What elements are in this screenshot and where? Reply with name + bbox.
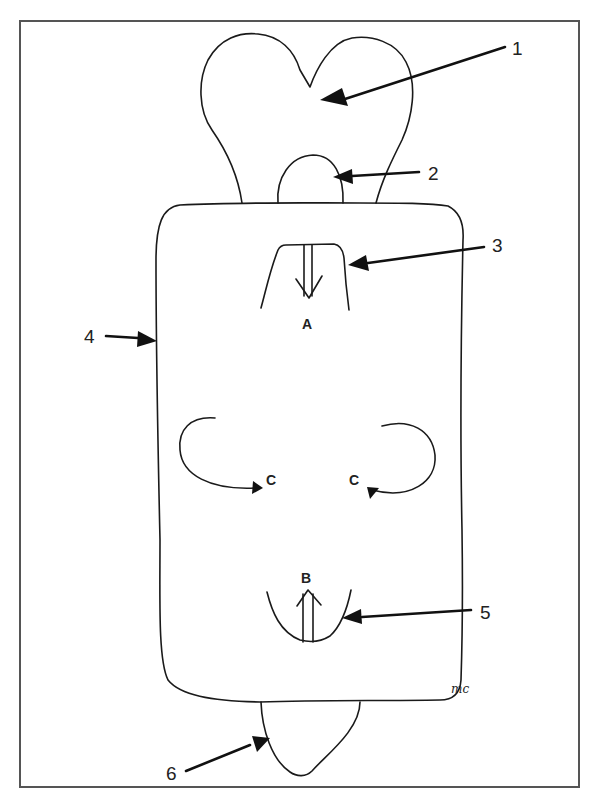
lower-cavity [267, 590, 351, 641]
down-arrow-icon [296, 245, 322, 298]
artist-signature: mc [451, 682, 469, 696]
central-body [156, 203, 463, 702]
up-arrow-icon [297, 590, 321, 642]
lower-lobe [261, 702, 360, 776]
leader-6 [186, 736, 270, 771]
letter-c-left: C [266, 472, 276, 488]
upper-heart-lobe [201, 34, 413, 203]
letter-b: B [301, 570, 311, 586]
callout-label-1: 1 [512, 38, 523, 59]
leader-4 [106, 331, 157, 347]
leader-2 [333, 169, 419, 184]
curved-arrow-left-icon [180, 418, 263, 494]
letter-c-right: C [349, 472, 359, 488]
letter-a: A [302, 316, 312, 332]
callout-label-2: 2 [428, 163, 439, 184]
upper-cavity [261, 244, 349, 310]
leader-5 [342, 609, 471, 624]
callout-label-4: 4 [84, 326, 95, 347]
upper-inner-dome [278, 155, 343, 203]
callout-label-3: 3 [492, 235, 503, 256]
callout-label-5: 5 [480, 602, 491, 623]
leader-3 [348, 247, 484, 271]
diagram-figure: 1 2 3 4 5 6 A B C C mc [0, 0, 595, 798]
curved-arrow-right-icon [367, 424, 435, 499]
callout-label-6: 6 [166, 763, 177, 784]
frame-border [20, 21, 579, 787]
